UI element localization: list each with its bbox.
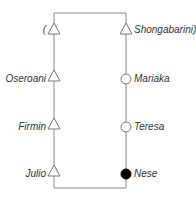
label-left-1: ( — [43, 24, 46, 36]
circle-icon — [121, 74, 131, 84]
triangle-icon — [120, 23, 132, 34]
label-julio: Julio — [25, 168, 46, 180]
label-mariaka: Mariaka — [134, 73, 170, 85]
label-firmin: Firmin — [18, 121, 46, 133]
circle-icon — [121, 122, 131, 132]
top-connector — [54, 13, 126, 35]
label-nese: Nese — [134, 168, 157, 180]
filled-circle-icon — [121, 169, 131, 179]
label-shongabarini: Shongabarini) — [134, 24, 196, 36]
label-teresa: Teresa — [134, 121, 164, 133]
triangle-icon — [48, 23, 60, 34]
triangle-icon — [48, 165, 60, 176]
triangle-icon — [48, 70, 60, 81]
label-oseroani: Oseroani — [5, 73, 46, 85]
triangle-icon — [48, 118, 60, 129]
